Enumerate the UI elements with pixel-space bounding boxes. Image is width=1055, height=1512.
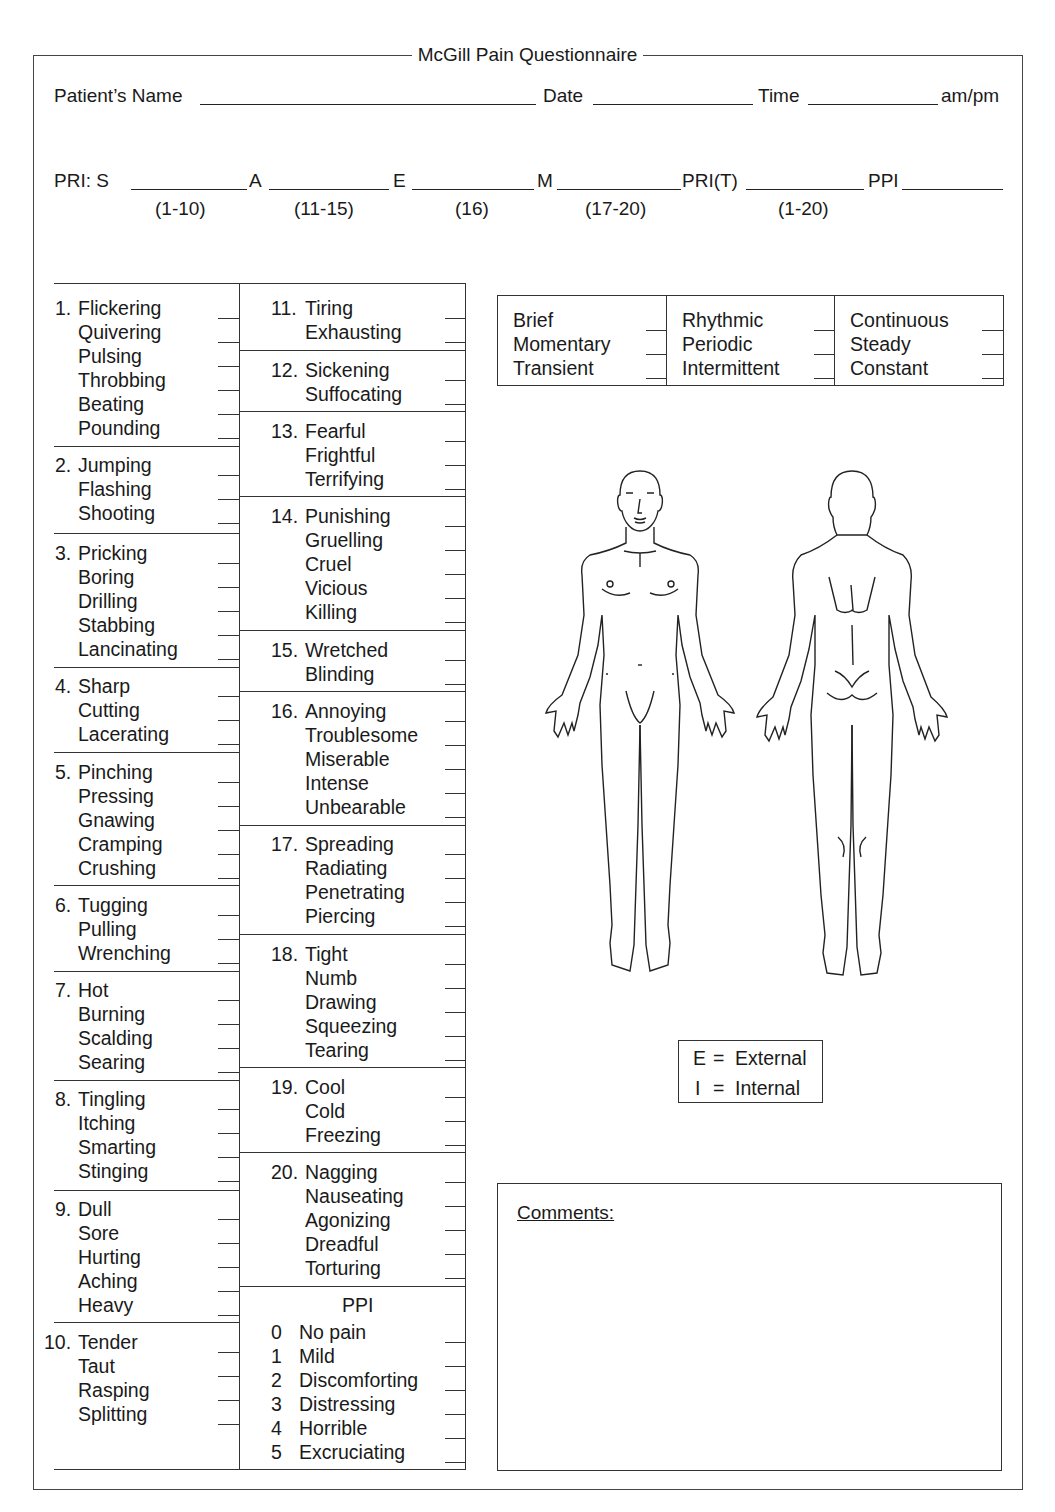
descriptor-checkbox[interactable] bbox=[445, 926, 466, 927]
descriptor-checkbox[interactable] bbox=[218, 611, 239, 612]
descriptor-checkbox[interactable] bbox=[218, 438, 239, 439]
descriptor-checkbox[interactable] bbox=[218, 720, 239, 721]
descriptor-checkbox[interactable] bbox=[445, 660, 466, 661]
descriptor-checkbox[interactable] bbox=[218, 414, 239, 415]
descriptor-checkbox[interactable] bbox=[445, 526, 466, 527]
descriptor-checkbox[interactable] bbox=[218, 744, 239, 745]
descriptor-checkbox[interactable] bbox=[445, 684, 466, 685]
ppi-checkbox[interactable] bbox=[445, 1366, 466, 1367]
descriptor-checkbox[interactable] bbox=[218, 499, 239, 500]
temporal-checkbox[interactable] bbox=[646, 330, 667, 331]
pri-a-field[interactable] bbox=[269, 189, 389, 190]
temporal-checkbox[interactable] bbox=[982, 354, 1003, 355]
descriptor-checkbox[interactable] bbox=[445, 1060, 466, 1061]
descriptor-checkbox[interactable] bbox=[445, 441, 466, 442]
temporal-checkbox[interactable] bbox=[982, 330, 1003, 331]
descriptor-checkbox[interactable] bbox=[218, 390, 239, 391]
descriptor-checkbox[interactable] bbox=[218, 523, 239, 524]
descriptor-checkbox[interactable] bbox=[445, 380, 466, 381]
descriptor-checkbox[interactable] bbox=[218, 635, 239, 636]
descriptor-checkbox[interactable] bbox=[445, 1230, 466, 1231]
descriptor-checkbox[interactable] bbox=[445, 964, 466, 965]
descriptor-checkbox[interactable] bbox=[218, 915, 239, 916]
descriptor-checkbox[interactable] bbox=[218, 475, 239, 476]
ppi-checkbox[interactable] bbox=[445, 1414, 466, 1415]
descriptor-checkbox[interactable] bbox=[218, 1267, 239, 1268]
descriptor-checkbox[interactable] bbox=[218, 854, 239, 855]
pri-e-field[interactable] bbox=[412, 189, 534, 190]
descriptor-checkbox[interactable] bbox=[445, 574, 466, 575]
descriptor-checkbox[interactable] bbox=[218, 1133, 239, 1134]
temporal-checkbox[interactable] bbox=[814, 378, 835, 379]
descriptor-checkbox[interactable] bbox=[218, 318, 239, 319]
pri-s-field[interactable] bbox=[131, 189, 247, 190]
descriptor-checkbox[interactable] bbox=[445, 793, 466, 794]
descriptor-checkbox[interactable] bbox=[218, 1315, 239, 1316]
descriptor-checkbox[interactable] bbox=[218, 587, 239, 588]
descriptor-checkbox[interactable] bbox=[218, 878, 239, 879]
ppi-field[interactable] bbox=[902, 189, 1003, 190]
descriptor-checkbox[interactable] bbox=[445, 817, 466, 818]
descriptor-checkbox[interactable] bbox=[445, 1121, 466, 1122]
descriptor-checkbox[interactable] bbox=[445, 1182, 466, 1183]
temporal-checkbox[interactable] bbox=[646, 378, 667, 379]
ppi-checkbox[interactable] bbox=[445, 1390, 466, 1391]
descriptor-checkbox[interactable] bbox=[445, 1278, 466, 1279]
descriptor-checkbox[interactable] bbox=[218, 696, 239, 697]
temporal-checkbox[interactable] bbox=[646, 354, 667, 355]
descriptor-checkbox[interactable] bbox=[445, 622, 466, 623]
descriptor-checkbox[interactable] bbox=[218, 563, 239, 564]
descriptor-checkbox[interactable] bbox=[218, 1181, 239, 1182]
pri-m-field[interactable] bbox=[557, 189, 681, 190]
descriptor-checkbox[interactable] bbox=[445, 769, 466, 770]
back-body-figure[interactable] bbox=[745, 465, 960, 980]
descriptor-checkbox[interactable] bbox=[218, 1157, 239, 1158]
descriptor-checkbox[interactable] bbox=[218, 1352, 239, 1353]
descriptor-checkbox[interactable] bbox=[445, 878, 466, 879]
temporal-checkbox[interactable] bbox=[814, 330, 835, 331]
descriptor-checkbox[interactable] bbox=[445, 489, 466, 490]
ppi-checkbox[interactable] bbox=[445, 1462, 466, 1463]
descriptor-checkbox[interactable] bbox=[218, 1072, 239, 1073]
descriptor-checkbox[interactable] bbox=[445, 342, 466, 343]
descriptor-checkbox[interactable] bbox=[445, 318, 466, 319]
descriptor-checkbox[interactable] bbox=[445, 1206, 466, 1207]
descriptor-checkbox[interactable] bbox=[218, 1048, 239, 1049]
descriptor-checkbox[interactable] bbox=[445, 988, 466, 989]
front-body-figure[interactable] bbox=[540, 465, 740, 980]
descriptor-checkbox[interactable] bbox=[445, 854, 466, 855]
descriptor-checkbox[interactable] bbox=[445, 1012, 466, 1013]
descriptor-checkbox[interactable] bbox=[218, 1024, 239, 1025]
descriptor-checkbox[interactable] bbox=[445, 902, 466, 903]
descriptor-checkbox[interactable] bbox=[445, 1036, 466, 1037]
descriptor-checkbox[interactable] bbox=[218, 1291, 239, 1292]
descriptor-checkbox[interactable] bbox=[218, 1424, 239, 1425]
comments-box[interactable] bbox=[497, 1183, 1002, 1471]
descriptor-checkbox[interactable] bbox=[218, 1109, 239, 1110]
descriptor-checkbox[interactable] bbox=[218, 1000, 239, 1001]
date-field[interactable] bbox=[593, 104, 753, 105]
descriptor-checkbox[interactable] bbox=[218, 830, 239, 831]
descriptor-checkbox[interactable] bbox=[218, 1219, 239, 1220]
descriptor-checkbox[interactable] bbox=[218, 963, 239, 964]
descriptor-checkbox[interactable] bbox=[445, 404, 466, 405]
time-field[interactable] bbox=[808, 104, 938, 105]
descriptor-checkbox[interactable] bbox=[218, 659, 239, 660]
ppi-checkbox[interactable] bbox=[445, 1342, 466, 1343]
descriptor-checkbox[interactable] bbox=[218, 1243, 239, 1244]
descriptor-checkbox[interactable] bbox=[445, 721, 466, 722]
descriptor-checkbox[interactable] bbox=[445, 1097, 466, 1098]
ppi-checkbox[interactable] bbox=[445, 1438, 466, 1439]
descriptor-checkbox[interactable] bbox=[445, 1254, 466, 1255]
patient-name-field[interactable] bbox=[200, 104, 536, 105]
descriptor-checkbox[interactable] bbox=[445, 465, 466, 466]
temporal-checkbox[interactable] bbox=[982, 378, 1003, 379]
descriptor-checkbox[interactable] bbox=[218, 342, 239, 343]
descriptor-checkbox[interactable] bbox=[218, 806, 239, 807]
descriptor-checkbox[interactable] bbox=[445, 745, 466, 746]
descriptor-checkbox[interactable] bbox=[445, 1145, 466, 1146]
descriptor-checkbox[interactable] bbox=[445, 598, 466, 599]
pri-t-field[interactable] bbox=[746, 189, 864, 190]
temporal-checkbox[interactable] bbox=[814, 354, 835, 355]
descriptor-checkbox[interactable] bbox=[218, 1376, 239, 1377]
